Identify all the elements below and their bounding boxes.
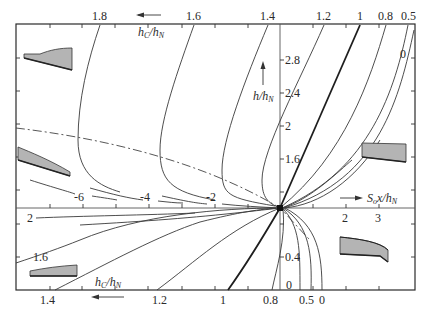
sketch-bottom-left <box>30 265 77 276</box>
horizontal-axis-title: Sox/hN <box>340 191 398 206</box>
top-label-1.6: 1.6 <box>186 9 201 23</box>
top-axis-title: hC/hN <box>136 13 165 41</box>
v-label-2: 2 <box>285 119 291 133</box>
lower-curves <box>16 208 322 290</box>
svg-text:hC/hN: hC/hN <box>138 25 165 40</box>
bottom-label-1: 1 <box>220 293 226 307</box>
bottom-label-1.4: 1.4 <box>40 293 55 307</box>
curve-hc-1.4-top <box>222 25 275 206</box>
curve-hc-1.6-top <box>160 25 215 200</box>
singular-point <box>277 205 283 211</box>
bottom-axis-labels: 1.4 1.2 1 0.8 0.5 0 <box>40 293 325 307</box>
curve-minus6 <box>30 180 75 194</box>
curve-hc-1.8-top <box>78 25 120 192</box>
horizontal-axis-labels: 2 3 -6 -4 -2 2 <box>27 190 381 225</box>
svg-text:h/hN: h/hN <box>253 89 274 104</box>
curve-minus6-right <box>92 196 117 200</box>
v-label-0: 0 <box>286 278 292 292</box>
v-label-1.6: 1.6 <box>285 152 300 166</box>
horizontal-axis-ticks <box>50 204 379 208</box>
curve-minus2-right <box>222 204 280 208</box>
left-arrow-icon <box>91 295 99 300</box>
top-label-1.2: 1.2 <box>316 9 331 23</box>
bottom-label-0.8: 0.8 <box>263 293 278 307</box>
svg-text:Sox/hN: Sox/hN <box>367 191 398 206</box>
curve-1.4-lower <box>55 208 280 290</box>
top-label-1: 1 <box>357 9 363 23</box>
h-label-2: 2 <box>342 211 348 225</box>
top-label-1.8: 1.8 <box>92 9 107 23</box>
sketch-upper-right <box>362 143 406 162</box>
upper-left-curves <box>78 25 414 208</box>
left-arrow-icon <box>136 13 144 18</box>
v-label-2.4: 2.4 <box>285 86 300 100</box>
curve-minus4 <box>90 188 143 200</box>
curve-hc-0-top <box>284 30 414 208</box>
right-arrow-icon <box>355 196 363 201</box>
v-label-2.8: 2.8 <box>285 53 300 67</box>
left-axis-curves <box>30 180 280 208</box>
bottom-label-0.5: 0.5 <box>299 293 314 307</box>
sketch-mid-left <box>18 147 70 176</box>
bottom-axis-title: hC/hN <box>91 275 124 300</box>
side-ticks <box>16 58 415 257</box>
curve-1.2-lower <box>157 208 280 290</box>
critical-depth-line <box>16 128 310 240</box>
vertical-axis-labels: 2.8 2.4 2 1.6 0.4 0 <box>285 53 300 292</box>
sketch-lower-right <box>340 237 388 262</box>
curve-label-0-right: 0 <box>400 47 406 61</box>
top-label-1.4: 1.4 <box>260 9 275 23</box>
up-arrow-icon <box>261 61 266 69</box>
h-label-minus2: -2 <box>206 190 216 204</box>
sketch-top-left <box>24 48 72 70</box>
curve-1.6-lower <box>16 208 280 263</box>
h-label-left-2: 2 <box>27 211 33 225</box>
h-label-3: 3 <box>375 211 381 225</box>
top-label-0.5: 0.5 <box>401 9 416 23</box>
gradually-varied-flow-diagram: 1.8 1.6 1.4 1.2 1 0.8 0.5 hC/hN 1.4 1.2 … <box>0 0 421 313</box>
vertical-axis-title: h/hN <box>253 61 274 104</box>
svg-text:hC/hN: hC/hN <box>95 275 122 290</box>
curve-minus4-right <box>158 201 183 203</box>
h-label-minus4: -4 <box>140 190 150 204</box>
bottom-label-0: 0 <box>319 293 325 307</box>
top-label-0.8: 0.8 <box>378 9 393 23</box>
curve-label-1.6-left: 1.6 <box>33 250 48 264</box>
v-label-0.4: 0.4 <box>285 250 300 264</box>
bottom-label-1.2: 1.2 <box>152 293 167 307</box>
h-label-minus6: -6 <box>74 190 84 204</box>
